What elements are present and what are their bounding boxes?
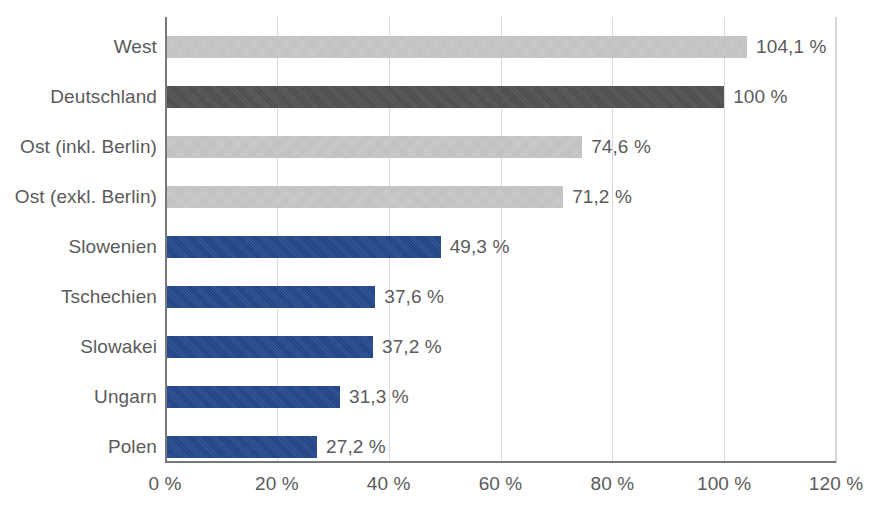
gridline-120 [836, 17, 837, 463]
bar-value-label: 71,2 % [572, 186, 632, 208]
bar-row: 100 % [165, 72, 836, 122]
bars-layer: 104,1 %100 %74,6 %71,2 %49,3 %37,6 %37,2… [165, 17, 836, 463]
category-label-ost-exkl-berlin: Ost (exkl. Berlin) [0, 172, 157, 222]
bar-ost-inkl-berlin[interactable] [165, 136, 582, 158]
category-label-ost-inkl-berlin: Ost (inkl. Berlin) [0, 122, 157, 172]
x-tick-label: 40 % [367, 473, 411, 495]
bar-tschechien[interactable] [165, 286, 375, 308]
bar-row: 31,3 % [165, 372, 836, 422]
plot-area: 104,1 %100 %74,6 %71,2 %49,3 %37,6 %37,2… [165, 17, 836, 463]
x-axis-tick-labels: 0 %20 %40 %60 %80 %100 %120 % [165, 473, 836, 507]
bar-chart: WestDeutschlandOst (inkl. Berlin)Ost (ex… [0, 0, 878, 519]
y-axis-category-labels: WestDeutschlandOst (inkl. Berlin)Ost (ex… [0, 17, 157, 463]
bar-ost-exkl-berlin[interactable] [165, 186, 563, 208]
x-axis-line [165, 461, 836, 463]
bar-value-label: 31,3 % [349, 386, 409, 408]
bar-value-label: 49,3 % [450, 236, 510, 258]
bar-row: 71,2 % [165, 172, 836, 222]
bar-deutschland[interactable] [165, 86, 724, 108]
category-label-slowakei: Slowakei [0, 322, 157, 372]
x-tick-label: 0 % [148, 473, 181, 495]
bar-row: 37,2 % [165, 322, 836, 372]
bar-value-label: 104,1 % [756, 36, 826, 58]
x-tick-label: 80 % [590, 473, 634, 495]
bar-slowenien[interactable] [165, 236, 441, 258]
bar-value-label: 27,2 % [326, 436, 386, 458]
category-label-polen: Polen [0, 422, 157, 472]
bar-row: 104,1 % [165, 22, 836, 72]
bar-polen[interactable] [165, 436, 317, 458]
bar-row: 49,3 % [165, 222, 836, 272]
category-label-tschechien: Tschechien [0, 272, 157, 322]
bar-row: 37,6 % [165, 272, 836, 322]
bar-slowakei[interactable] [165, 336, 373, 358]
category-label-deutschland: Deutschland [0, 72, 157, 122]
bar-value-label: 37,2 % [382, 336, 442, 358]
x-tick-label: 20 % [255, 473, 299, 495]
bar-value-label: 37,6 % [384, 286, 444, 308]
x-tick-label: 60 % [479, 473, 523, 495]
x-tick-label: 120 % [809, 473, 863, 495]
bar-west[interactable] [165, 36, 747, 58]
category-label-slowenien: Slowenien [0, 222, 157, 272]
category-label-west: West [0, 22, 157, 72]
category-label-ungarn: Ungarn [0, 372, 157, 422]
bar-value-label: 74,6 % [591, 136, 651, 158]
y-axis-line [165, 17, 167, 463]
x-tick-label: 100 % [697, 473, 751, 495]
bar-ungarn[interactable] [165, 386, 340, 408]
bar-row: 27,2 % [165, 422, 836, 472]
bar-row: 74,6 % [165, 122, 836, 172]
bar-value-label: 100 % [733, 86, 787, 108]
